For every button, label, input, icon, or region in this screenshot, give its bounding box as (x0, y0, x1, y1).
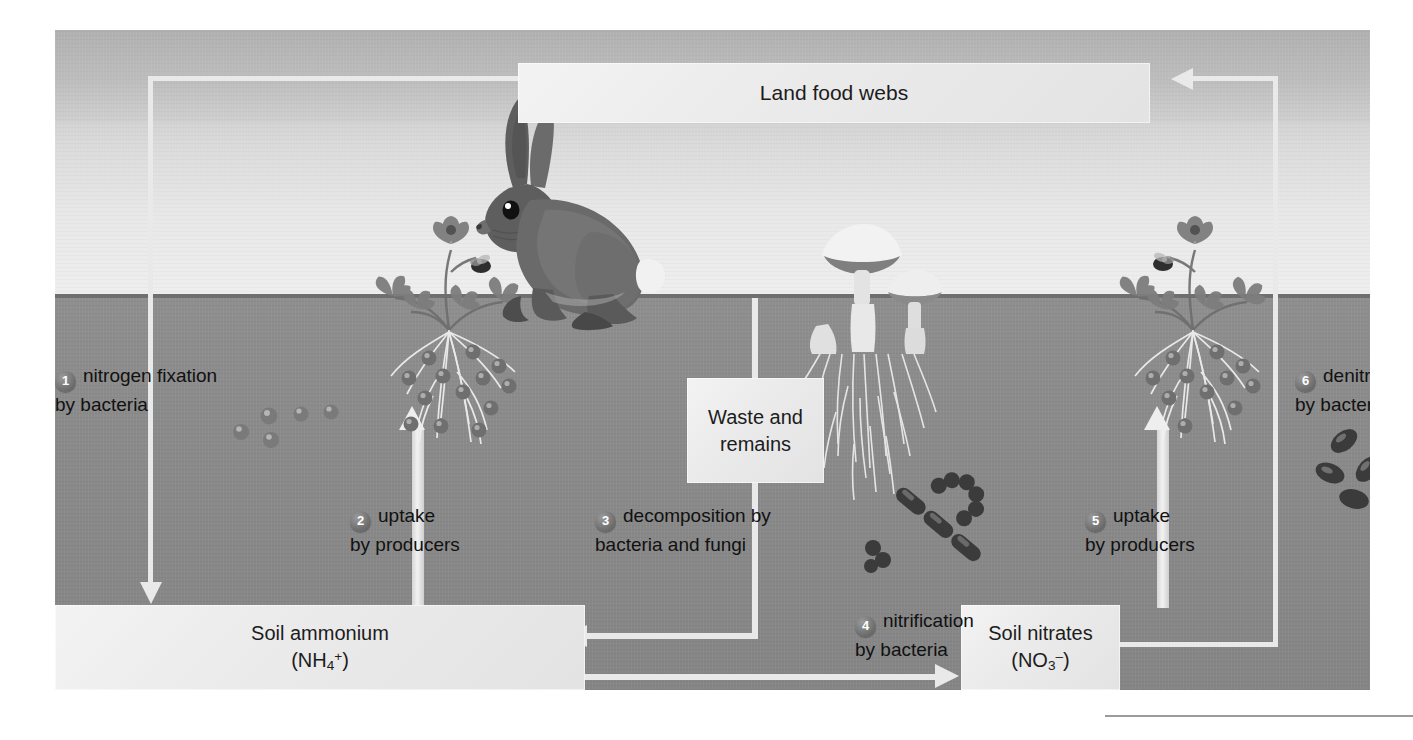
step-4-line-2: by bacteria (855, 637, 1055, 664)
arrowhead-into-soil-ammonium (140, 582, 162, 604)
step-5-line-2: by producers (1085, 532, 1285, 559)
step-3-decomposition: 3decomposition by bacteria and fungi (595, 503, 855, 559)
arrow-nitrates-to-land-horizontal (1118, 642, 1278, 647)
arrow-land-to-fixation-vertical (148, 76, 153, 588)
step-5-line-1: uptake (1113, 505, 1170, 526)
arrow-land-to-waste (752, 298, 758, 380)
land-food-webs-box[interactable]: Land food webs (518, 63, 1150, 123)
rabbit-icon (435, 92, 685, 332)
clover-plant-right-icon (1077, 180, 1307, 470)
waste-line-1: Waste and (708, 406, 803, 428)
step-3-badge: 3 (595, 511, 616, 532)
land-food-webs-label: Land food webs (760, 79, 908, 107)
decomposer-bacteria-chains (845, 460, 1025, 600)
arrowhead-into-land-food-webs (1171, 68, 1193, 90)
step-2-line-2: by producers (350, 532, 560, 559)
arrow-ammonium-to-nitrates (585, 674, 939, 680)
step-1-line-1: nitrogen fixation (83, 365, 217, 386)
step-2-badge: 2 (350, 511, 371, 532)
step-6-badge: 6 (1295, 371, 1316, 392)
denitrifying-bacteria-icon (1310, 425, 1370, 540)
step-4-badge: 4 (855, 616, 876, 637)
waste-and-remains-box[interactable]: Waste and remains (687, 378, 824, 483)
step-6-denitrification: 6denitrification by bacteria (1295, 363, 1370, 419)
step-1-line-2: by bacteria (55, 392, 305, 419)
soil-ammonium-label: Soil ammonium (NH4+) (251, 620, 389, 676)
step-6-line-2: by bacteria (1295, 392, 1370, 419)
nitrogen-cycle-diagram: Land food webs Waste and remains Soil am… (55, 30, 1370, 690)
waste-and-remains-label: Waste and remains (708, 404, 803, 458)
step-5-badge: 5 (1085, 511, 1106, 532)
step-1-nitrogen-fixation: 1nitrogen fixation by bacteria (55, 363, 305, 419)
soil-ammonium-box[interactable]: Soil ammonium (NH4+) (55, 605, 585, 690)
arrow-nitrates-to-land-top (1190, 76, 1278, 81)
step-6-line-1: denitrification (1323, 365, 1370, 386)
bee-icon (1153, 251, 1174, 271)
step-3-line-2: bacteria and fungi (595, 532, 855, 559)
soil-ammonium-name: Soil ammonium (251, 622, 389, 644)
arrow-decomposition-to-ammonium (587, 633, 758, 639)
arrowhead-ammonium-to-nitrates (935, 664, 959, 688)
step-4-nitrification: 4nitrification by bacteria (855, 608, 1055, 664)
arrow-land-to-fixation-horizontal (148, 76, 520, 81)
caption-box-top-rule (1105, 715, 1413, 717)
step-5-uptake-by-producers: 5uptake by producers (1085, 503, 1285, 559)
step-2-line-1: uptake (378, 505, 435, 526)
step-1-badge: 1 (55, 371, 76, 392)
step-4-line-1: nitrification (883, 610, 974, 631)
step-3-line-1: decomposition by (623, 505, 771, 526)
waste-line-2: remains (720, 433, 791, 455)
step-2-uptake-by-producers: 2uptake by producers (350, 503, 560, 559)
soil-ammonium-formula: (NH4+) (291, 649, 349, 671)
